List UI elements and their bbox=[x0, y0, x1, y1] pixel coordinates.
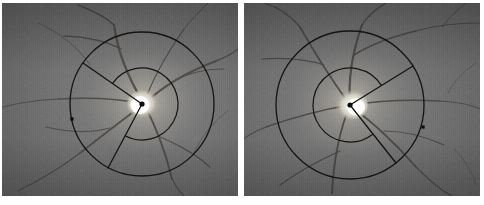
fundus-panel-left[interactable] bbox=[2, 3, 238, 196]
film-grain-right bbox=[244, 3, 480, 196]
figure-root bbox=[0, 0, 484, 205]
fundus-panel-right[interactable] bbox=[244, 3, 480, 196]
film-grain-left bbox=[2, 3, 238, 196]
